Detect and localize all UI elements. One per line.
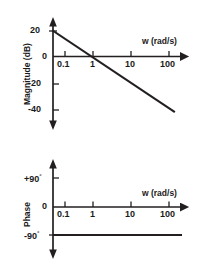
phase-x-axis-label: w (rad/s) <box>142 189 177 198</box>
phase-x-tick-label-0p1: 0.1 <box>57 210 70 219</box>
phase-y-tick-label-plus90: +90° <box>24 173 42 184</box>
phase-y-axis-label: Phase <box>23 202 32 227</box>
magnitude-y-tick-label-20: 20 <box>30 26 40 35</box>
magnitude-y-axis-label: Magnitude (dB) <box>23 43 32 105</box>
magnitude-y-axis-arrow-up <box>49 17 57 27</box>
magnitude-x-tick-label-1: 1 <box>90 60 95 69</box>
magnitude-x-axis-label: w (rad/s) <box>142 37 177 46</box>
magnitude-x-tick-label-100: 100 <box>160 60 175 69</box>
degree-icon: ° <box>39 173 41 179</box>
magnitude-x-tick-label-10: 10 <box>125 60 135 69</box>
phase-x-tick-label-10: 10 <box>125 210 135 219</box>
magnitude-plot <box>49 17 182 130</box>
phase-y-axis-arrow-down <box>49 250 57 260</box>
phase-y-tick-plus90-value: +90 <box>24 174 39 184</box>
magnitude-x-tick-label-0p1: 0.1 <box>57 60 70 69</box>
degree-icon-2: ° <box>37 230 39 236</box>
phase-x-tick-label-100: 100 <box>160 210 175 219</box>
magnitude-y-tick-label-minus40: -40 <box>28 105 41 114</box>
magnitude-y-axis-arrow-down <box>49 121 57 131</box>
phase-y-tick-label-minus90: -90° <box>24 230 39 241</box>
phase-y-tick-label-0: 0 <box>42 202 47 211</box>
phase-y-tick-minus90-value: -90 <box>24 231 37 241</box>
magnitude-y-tick-label-0: 0 <box>42 52 47 61</box>
phase-y-axis-arrow-up <box>49 159 57 169</box>
phase-x-tick-label-1: 1 <box>90 210 95 219</box>
